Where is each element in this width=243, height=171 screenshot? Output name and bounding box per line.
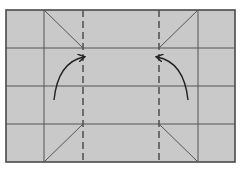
fold-diagram-canvas xyxy=(0,0,243,171)
origami-diagram xyxy=(0,0,243,171)
